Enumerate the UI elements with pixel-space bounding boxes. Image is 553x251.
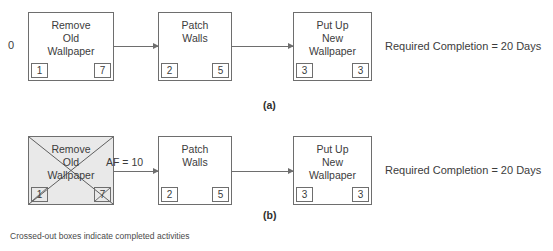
node-right-value: 7 (94, 63, 111, 78)
node-title: Remove Old Wallpaper (29, 19, 113, 58)
panel-a-arrow-1 (114, 46, 158, 47)
panel-b-node-patch-walls[interactable]: Patch Walls 2 5 (158, 136, 232, 205)
node-title: Put Up New Wallpaper (294, 143, 371, 182)
corner-crossed-out-icon (32, 188, 47, 201)
node-title: Put Up New Wallpaper (294, 19, 371, 58)
node-right-value: 3 (352, 63, 369, 78)
panel-b-arrow-1 (114, 171, 158, 172)
panel-b-node-remove-old-wallpaper[interactable]: Remove Old Wallpaper 1 7 (28, 136, 114, 205)
panel-b-required-completion-note: Required Completion = 20 Days (385, 163, 541, 177)
node-left-value: 3 (296, 187, 313, 202)
panel-a-start-label: 0 (8, 39, 14, 51)
node-left-value: 2 (161, 187, 178, 202)
node-right-value: 5 (212, 187, 229, 202)
panel-a-node-put-up-new-wallpaper[interactable]: Put Up New Wallpaper 3 3 (293, 12, 372, 81)
panel-b-arrow-2 (232, 171, 293, 172)
figure-footnote: Crossed-out boxes indicate completed act… (10, 231, 190, 241)
figure-canvas: 0 Remove Old Wallpaper 1 7 Patch Walls 2… (0, 0, 553, 251)
panel-b-caption: (b) (263, 209, 276, 221)
node-right-value: 5 (212, 63, 229, 78)
panel-a-caption: (a) (263, 99, 276, 111)
corner-crossed-out-icon (95, 188, 110, 201)
node-right-value: 7 (94, 187, 111, 202)
node-title: Patch Walls (159, 19, 231, 45)
node-left-value: 3 (296, 63, 313, 78)
panel-a: 0 Remove Old Wallpaper 1 7 Patch Walls 2… (0, 0, 553, 125)
panel-a-node-patch-walls[interactable]: Patch Walls 2 5 (158, 12, 232, 81)
panel-b-arrow-label: AF = 10 (106, 156, 143, 168)
panel-b-node-put-up-new-wallpaper[interactable]: Put Up New Wallpaper 3 3 (293, 136, 372, 205)
node-title: Remove Old Wallpaper (29, 143, 113, 182)
node-left-value: 1 (31, 63, 48, 78)
panel-a-node-remove-old-wallpaper[interactable]: Remove Old Wallpaper 1 7 (28, 12, 114, 81)
panel-a-arrow-2 (232, 46, 293, 47)
panel-a-required-completion-note: Required Completion = 20 Days (385, 39, 541, 53)
node-left-value: 2 (161, 63, 178, 78)
node-left-value: 1 (31, 187, 48, 202)
node-right-value: 3 (352, 187, 369, 202)
node-title: Patch Walls (159, 143, 231, 169)
